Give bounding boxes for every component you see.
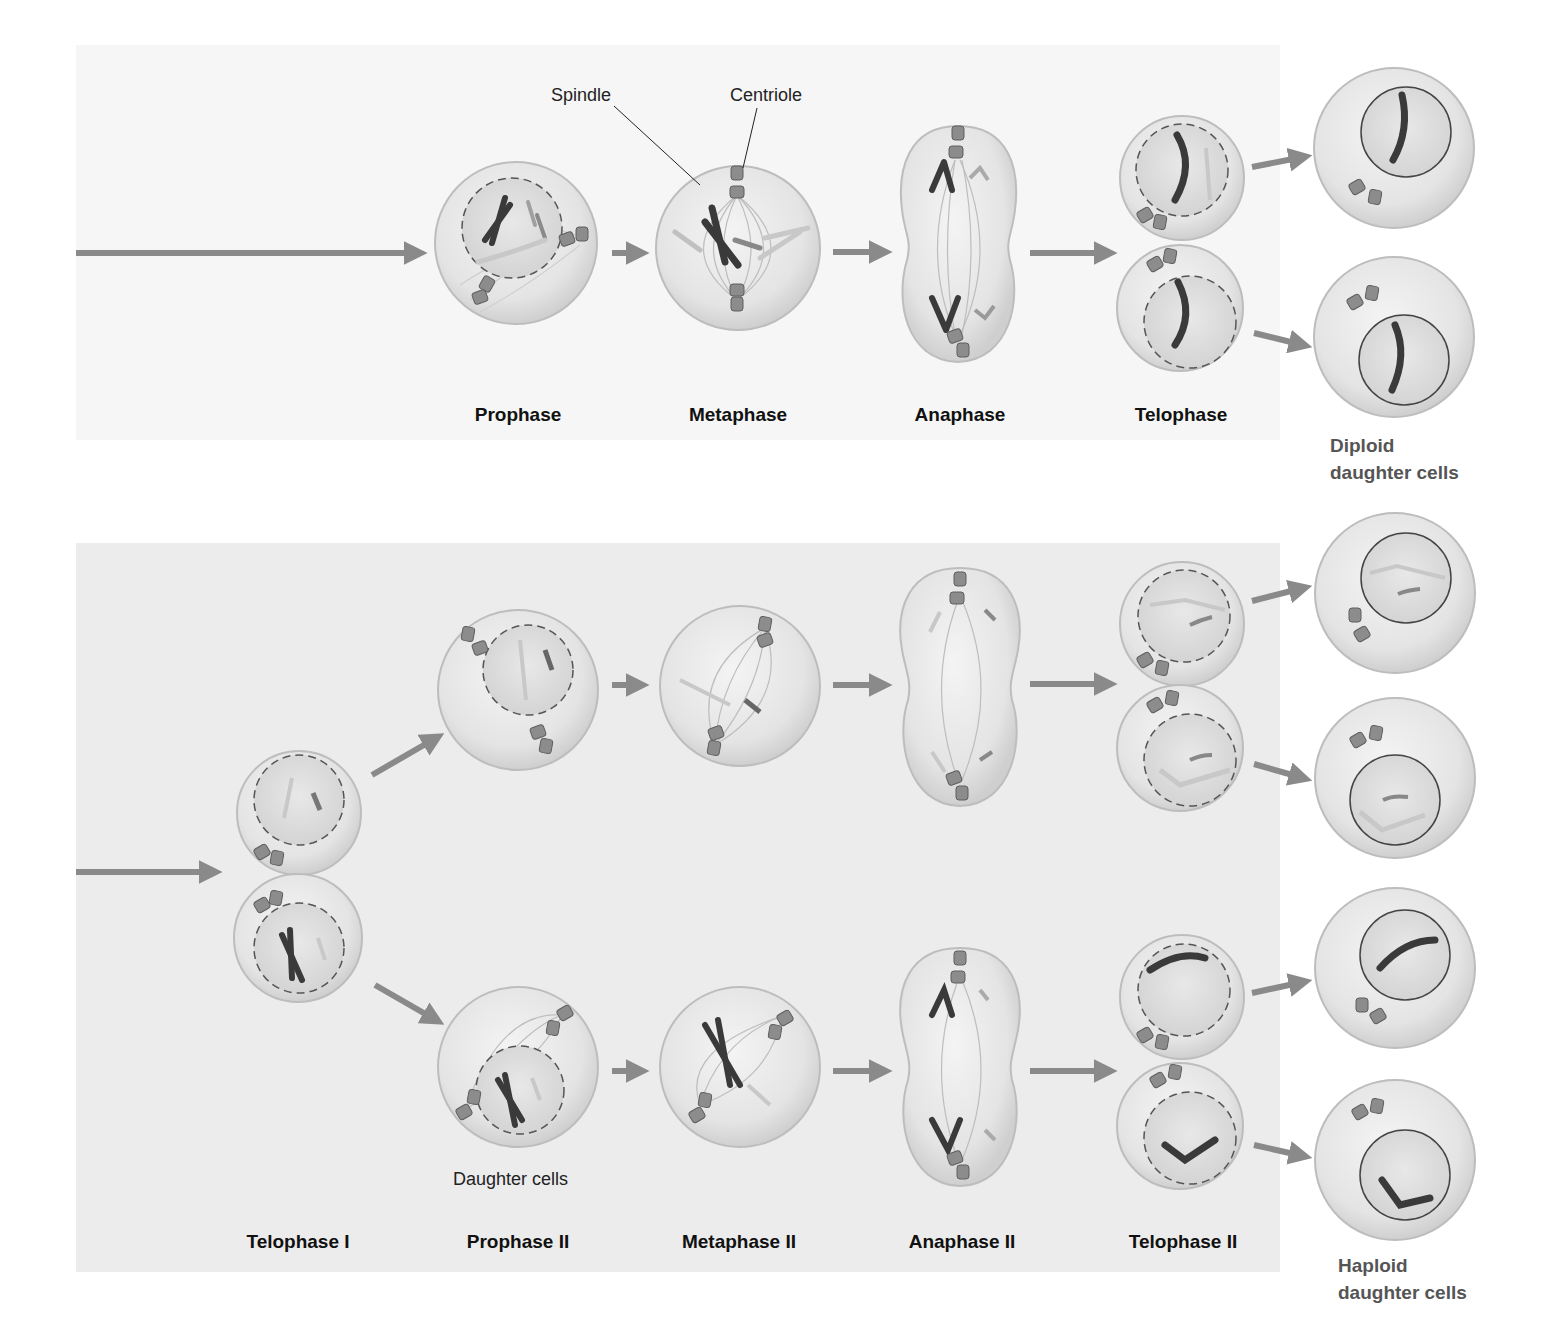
haploid-daughter-cells-top	[1315, 513, 1475, 858]
stage-label-prophase-ii: Prophase II	[467, 1231, 569, 1253]
stage-label-metaphase: Metaphase	[689, 404, 787, 426]
anaphase-cell	[901, 126, 1016, 362]
stage-label-anaphase: Anaphase	[915, 404, 1006, 426]
telophase-i-cells	[234, 751, 362, 1002]
anaphase-ii-cell-bottom	[900, 948, 1019, 1186]
prophase-ii-cell-top	[438, 610, 598, 770]
daughter-cells-note: Daughter cells	[453, 1169, 568, 1190]
haploid-label-line1: Haploid	[1338, 1252, 1467, 1279]
haploid-result-label: Haploid daughter cells	[1338, 1252, 1467, 1306]
diploid-daughter-cells	[1314, 68, 1474, 417]
centriole-label: Centriole	[730, 85, 802, 106]
stage-label-metaphase-ii: Metaphase II	[682, 1231, 796, 1253]
metaphase-ii-cell-bottom	[660, 987, 820, 1147]
centriole-callout-line	[743, 108, 757, 168]
haploid-label-line2: daughter cells	[1338, 1279, 1467, 1306]
spindle-label: Spindle	[551, 85, 611, 106]
metaphase-cell	[656, 166, 820, 330]
haploid-daughter-cells-bottom	[1315, 888, 1475, 1240]
prophase-ii-cell-bottom	[438, 987, 598, 1147]
diploid-label-line1: Diploid	[1330, 432, 1459, 459]
cell-division-diagram	[0, 0, 1551, 1319]
telophase-cells	[1117, 116, 1244, 371]
stage-label-telophase: Telophase	[1135, 404, 1228, 426]
spindle-callout-line	[614, 106, 700, 185]
diploid-label-line2: daughter cells	[1330, 459, 1459, 486]
prophase-cell	[435, 162, 597, 324]
stage-label-prophase: Prophase	[475, 404, 562, 426]
diploid-result-label: Diploid daughter cells	[1330, 432, 1459, 486]
anaphase-ii-cell-top	[900, 568, 1019, 806]
stage-label-telophase-i: Telophase I	[246, 1231, 349, 1253]
stage-label-telophase-ii: Telophase II	[1129, 1231, 1237, 1253]
telophase-ii-cells-bottom	[1117, 935, 1244, 1189]
metaphase-ii-cell-top	[660, 606, 820, 766]
telophase-ii-cells-top	[1117, 562, 1244, 811]
stage-label-anaphase-ii: Anaphase II	[909, 1231, 1016, 1253]
